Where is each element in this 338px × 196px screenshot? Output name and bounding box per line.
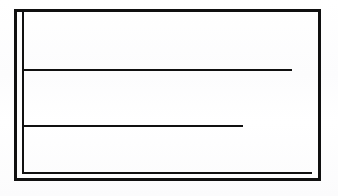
frame-top-edge (14, 9, 321, 12)
upper-horizontal-rule (22, 69, 292, 71)
frame-left-edge (14, 9, 17, 181)
region-top (26, 14, 316, 67)
region-middle (26, 73, 316, 123)
frame-bottom-edge (14, 178, 321, 181)
inner-bottom-rule (22, 172, 312, 174)
inner-vertical-rule (22, 12, 24, 174)
frame-right-edge (318, 9, 321, 181)
lower-horizontal-rule (22, 125, 243, 127)
region-bottom (26, 129, 316, 170)
diagram-canvas (0, 0, 338, 196)
